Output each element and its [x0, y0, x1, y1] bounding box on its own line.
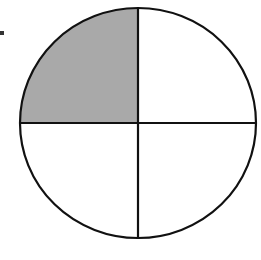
fraction-circle-diagram [0, 0, 261, 260]
bullet-marker [0, 31, 4, 35]
shaded-quadrant-top-left [20, 8, 138, 123]
